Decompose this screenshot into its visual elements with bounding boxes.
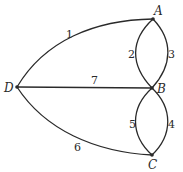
edge-label-6: 6	[74, 141, 81, 154]
edge-label-1: 1	[66, 28, 73, 41]
node-b	[150, 86, 154, 90]
node-c	[150, 153, 154, 157]
edge-2	[136, 19, 153, 88]
edge-label-7: 7	[91, 74, 98, 87]
edge-4	[152, 88, 168, 155]
edge-label-2: 2	[128, 48, 135, 61]
node-label-c: C	[148, 158, 157, 172]
node-label-b: B	[156, 82, 166, 96]
node-label-a: A	[153, 4, 163, 18]
edge-5	[136, 88, 153, 155]
edge-label-3: 3	[168, 48, 175, 61]
edge-7	[17, 87, 152, 88]
edge-3	[152, 19, 168, 88]
edge-label-5: 5	[129, 118, 136, 131]
edge-label-4: 4	[168, 118, 175, 131]
graph-diagram: A B C D 1 2 3 4 5 6 7	[0, 0, 183, 172]
node-d	[15, 85, 19, 89]
node-label-d: D	[3, 81, 14, 95]
